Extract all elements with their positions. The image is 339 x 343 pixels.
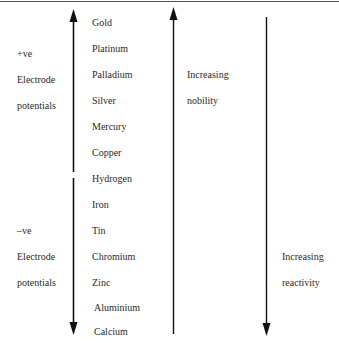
metal-gold: Gold xyxy=(92,17,112,29)
metal-copper: Copper xyxy=(92,147,121,159)
metal-chromium: Chromium xyxy=(92,251,135,263)
metal-palladium: Palladium xyxy=(92,69,133,81)
arrow-up-icon xyxy=(70,9,78,22)
metal-aluminium: Aluminium xyxy=(94,302,140,314)
positive-potential-arrow xyxy=(70,9,78,172)
positive-electrode-label: Electrode xyxy=(17,74,55,86)
negative-potentials-label: potentials xyxy=(17,277,56,289)
negative-sign-label: –ve xyxy=(17,225,31,237)
metal-zinc: Zinc xyxy=(92,277,110,289)
arrows-layer xyxy=(0,0,339,343)
negative-potential-arrow xyxy=(70,178,78,335)
metal-calcium: Calcium xyxy=(94,326,128,338)
metal-iron: Iron xyxy=(92,199,109,211)
reactivity-arrow xyxy=(263,17,271,336)
positive-sign-label: +ve xyxy=(17,48,32,60)
increasing-reactivity-label-1: Increasing xyxy=(282,251,324,263)
increasing-reactivity-label-2: reactivity xyxy=(282,277,320,289)
metal-tin: Tin xyxy=(92,225,106,237)
metal-hydrogen: Hydrogen xyxy=(92,173,132,185)
arrow-up-icon xyxy=(170,7,178,20)
nobility-arrow xyxy=(170,7,178,334)
negative-electrode-label: Electrode xyxy=(17,251,55,263)
metal-platinum: Platinum xyxy=(92,43,128,55)
arrow-down-icon xyxy=(70,322,78,335)
increasing-nobility-label-2: nobility xyxy=(187,95,218,107)
metal-mercury: Mercury xyxy=(92,121,126,133)
metal-silver: Silver xyxy=(92,95,116,107)
arrow-down-icon xyxy=(263,323,271,336)
positive-potentials-label: potentials xyxy=(17,100,56,112)
increasing-nobility-label-1: Increasing xyxy=(187,69,229,81)
